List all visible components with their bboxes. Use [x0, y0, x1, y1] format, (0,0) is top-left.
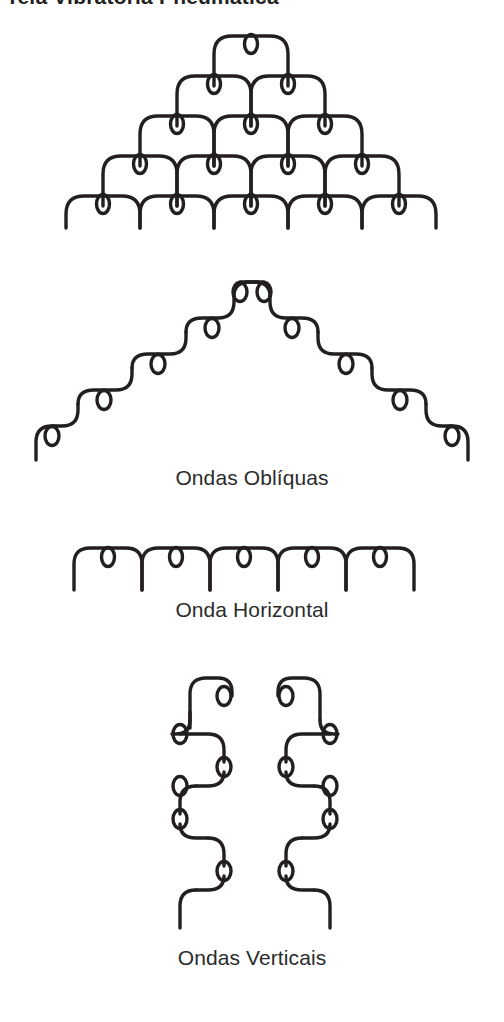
caption-vertical-waves: Ondas Verticais — [0, 946, 504, 970]
vertical-waves-svg — [0, 666, 504, 938]
page-title: Tela Vibratória Pneumática — [0, 0, 504, 9]
page-root: Tela Vibratória Pneumática — [0, 0, 504, 1022]
pyramid-wave-svg — [0, 14, 504, 232]
oblique-waves-diagram — [0, 264, 504, 464]
caption-oblique-waves: Ondas Oblíquas — [0, 466, 504, 490]
caption-horizontal-wave: Onda Horizontal — [0, 598, 504, 622]
oblique-waves-svg — [0, 264, 504, 464]
pyramid-wave-diagram — [0, 14, 504, 232]
horizontal-wave-diagram — [0, 536, 504, 594]
horizontal-wave-svg — [0, 536, 504, 594]
vertical-waves-diagram — [0, 666, 504, 938]
